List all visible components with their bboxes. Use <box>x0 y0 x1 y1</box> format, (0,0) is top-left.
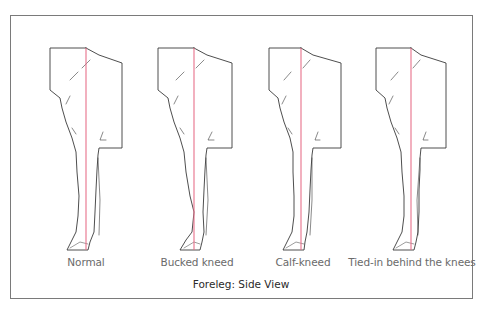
label-bucked-kneed: Bucked kneed <box>161 256 234 268</box>
label-normal: Normal <box>67 256 104 268</box>
leg-drawing-calf-kneed <box>269 48 341 250</box>
label-tied-in: Tied-in behind the knees <box>348 256 475 268</box>
leg-drawing-bucked-kneed <box>158 48 232 250</box>
label-calf-kneed: Calf-kneed <box>276 256 331 268</box>
figure-title: Foreleg: Side View <box>193 278 290 290</box>
